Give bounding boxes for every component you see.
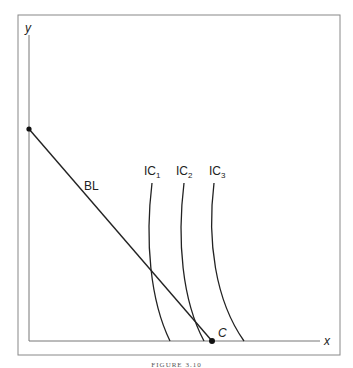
x-axis-label: x — [324, 335, 330, 347]
y-axis-label: y — [25, 22, 31, 34]
indifference-curve-3 — [212, 183, 244, 341]
figure-frame — [18, 15, 340, 355]
ic3-label: IC3 — [209, 165, 225, 182]
indifference-curve-1 — [149, 183, 170, 341]
indifference-curve-2 — [181, 183, 204, 341]
ic2-label: IC2 — [176, 165, 192, 182]
point-c-label: C — [218, 327, 227, 339]
budget-line — [29, 129, 212, 341]
point-c-dot — [209, 338, 215, 344]
y-intercept-dot — [26, 126, 31, 131]
diagram — [0, 0, 353, 368]
budget-line-label: BL — [84, 180, 99, 192]
figure-caption: FIGURE 3.10 — [0, 361, 353, 368]
ic1-label: IC1 — [144, 165, 160, 182]
